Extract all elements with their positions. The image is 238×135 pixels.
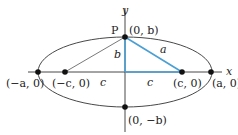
left-vertex-point — [35, 69, 41, 75]
left-vertex-label: (−a, 0) — [6, 77, 44, 90]
segment-c-right-label: c — [147, 76, 153, 89]
right-focus-point — [179, 69, 185, 75]
top-covertex-label: (0, b) — [129, 24, 159, 37]
bottom-covertex-label: (0, −b) — [128, 114, 167, 127]
right-vertex-point — [208, 69, 214, 75]
ellipse-diagram: y x P (0, b) (−a, 0) (−c, 0) (c, 0) (a, … — [0, 0, 238, 135]
right-focus-label: (c, 0) — [173, 77, 202, 90]
left-focus-label: (−c, 0) — [52, 77, 90, 90]
segment-a-label: a — [160, 43, 167, 56]
y-axis-label: y — [121, 4, 129, 17]
bottom-covertex-point — [122, 104, 128, 110]
top-covertex-point — [122, 34, 128, 40]
segment-c-left-label: c — [100, 76, 106, 89]
hypotenuse-a — [125, 37, 182, 72]
right-vertex-label: (a, 0) — [212, 77, 238, 90]
left-focus-point — [62, 69, 68, 75]
point-p-name: P — [111, 24, 119, 37]
segment-b-label: b — [114, 48, 121, 61]
